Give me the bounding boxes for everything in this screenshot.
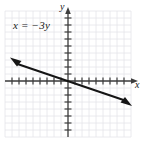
x-axis-label: x (135, 79, 139, 90)
equation-label: x = −3y (13, 19, 50, 31)
y-axis-label: y (60, 1, 64, 12)
y-axis (65, 7, 71, 137)
plotted-line (10, 58, 132, 107)
graph-figure: x = −3y y x (0, 0, 146, 146)
